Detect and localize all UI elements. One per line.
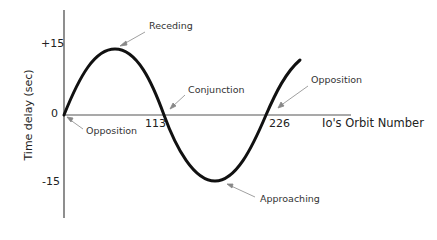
y-tick-zero: 0 [51,107,58,120]
opposition-end-arrow [280,86,308,106]
label-opposition-start: Opposition [86,125,137,136]
opposition-end-arrowhead [278,102,284,108]
x-tick-226: 226 [269,117,290,130]
approaching-arrowhead [227,184,233,188]
receding-arrowhead [120,41,127,46]
y-tick-minus15: -15 [42,175,60,188]
label-opposition-end: Opposition [311,74,362,85]
label-approaching: Approaching [260,193,320,204]
label-conjunction: Conjunction [188,84,245,95]
x-axis-title: Io's Orbit Number [322,116,424,130]
approaching-arrow [229,185,255,197]
x-tick-113: 113 [145,117,166,130]
y-tick-plus15: +15 [41,37,64,50]
y-axis-title: Time delay (sec) [22,69,35,160]
label-receding: Receding [149,20,193,31]
